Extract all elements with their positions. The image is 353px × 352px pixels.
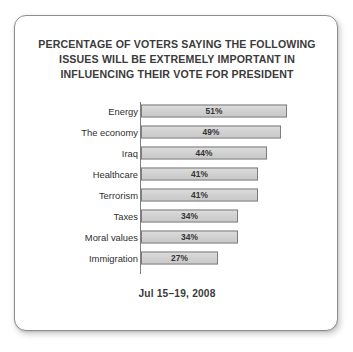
bar: 41% xyxy=(141,188,258,201)
bar-rows: Energy51%The economy49%Iraq44%Healthcare… xyxy=(15,100,337,268)
bar-row: Healthcare41% xyxy=(15,163,337,184)
bar: 44% xyxy=(141,146,267,159)
bar-category-label: Immigration xyxy=(89,252,138,263)
bar: 51% xyxy=(141,104,287,117)
bar-track: 34% xyxy=(141,230,238,243)
bar-category-label: Terrorism xyxy=(99,189,138,200)
bar-chart-plot-area: Energy51%The economy49%Iraq44%Healthcare… xyxy=(15,100,337,275)
chart-title-line-2: ISSUES WILL BE EXTREMELY IMPORTANT IN xyxy=(27,52,327,67)
bar-row: Moral values34% xyxy=(15,226,337,247)
bar-value-label: 27% xyxy=(142,253,217,263)
bar-value-label: 44% xyxy=(142,148,266,158)
bar-track: 44% xyxy=(141,146,267,159)
bar-value-label: 34% xyxy=(142,211,237,221)
screenshot-stage: PERCENTAGE OF VOTERS SAYING THE FOLLOWIN… xyxy=(0,0,353,352)
bar-row: The economy49% xyxy=(15,121,337,142)
bar-value-label: 34% xyxy=(142,232,237,242)
survey-date-footer: Jul 15–19, 2008 xyxy=(27,288,327,299)
bar-track: 27% xyxy=(141,251,218,264)
bar-category-label: Healthcare xyxy=(93,168,138,179)
bar-value-label: 49% xyxy=(142,127,280,137)
bar-category-label: Taxes xyxy=(114,210,139,221)
bar-category-label: Iraq xyxy=(122,147,138,158)
chart-title: PERCENTAGE OF VOTERS SAYING THE FOLLOWIN… xyxy=(27,37,327,82)
bar: 34% xyxy=(141,209,238,222)
chart-card: PERCENTAGE OF VOTERS SAYING THE FOLLOWIN… xyxy=(14,15,338,331)
bar-track: 34% xyxy=(141,209,238,222)
bar: 49% xyxy=(141,125,281,138)
bar-row: Terrorism41% xyxy=(15,184,337,205)
bar-value-label: 41% xyxy=(142,190,257,200)
chart-title-line-1: PERCENTAGE OF VOTERS SAYING THE FOLLOWIN… xyxy=(27,37,327,52)
bar-category-label: The economy xyxy=(81,126,138,137)
bar: 41% xyxy=(141,167,258,180)
bar-track: 51% xyxy=(141,104,287,117)
bar: 27% xyxy=(141,251,218,264)
bar-track: 41% xyxy=(141,188,258,201)
chart-title-line-3: INFLUENCING THEIR VOTE FOR PRESIDENT xyxy=(27,67,327,82)
bar-value-label: 41% xyxy=(142,169,257,179)
bar-row: Taxes34% xyxy=(15,205,337,226)
bar-track: 49% xyxy=(141,125,281,138)
bar-track: 41% xyxy=(141,167,258,180)
bar-value-label: 51% xyxy=(142,106,286,116)
bar-row: Iraq44% xyxy=(15,142,337,163)
bar-row: Immigration27% xyxy=(15,247,337,268)
bar: 34% xyxy=(141,230,238,243)
bar-row: Energy51% xyxy=(15,100,337,121)
bar-category-label: Moral values xyxy=(85,231,138,242)
bar-category-label: Energy xyxy=(108,105,138,116)
